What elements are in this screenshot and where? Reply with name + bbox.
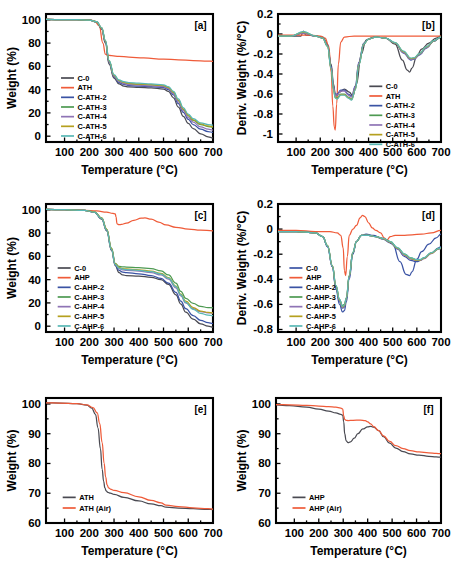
- legend-label-c-0: C-0: [306, 264, 318, 273]
- legend-label-c-ahp-4: C-AHP-4: [74, 302, 105, 311]
- x-tick-label: 600: [407, 527, 426, 539]
- legend-label-ahp-air: AHP (Air): [309, 504, 342, 513]
- plot-frame: [46, 398, 213, 523]
- chart-panel-d: 0.20-0.2-0.4-0.6-0.810020030040050060070…: [226, 192, 451, 382]
- legend-label-c-ath-5: C-ATH-5: [386, 130, 415, 139]
- y-tick-label: -0.2: [253, 248, 273, 260]
- y-tick-label: -0.8: [253, 108, 273, 120]
- series-curve-ath: [46, 19, 213, 61]
- x-tick-label: 300: [335, 336, 354, 348]
- legend-label-c-ahp-3: C-AHP-3: [306, 293, 336, 302]
- x-axis-title: Temperature (°C): [81, 163, 178, 177]
- y-tick-label: 40: [28, 84, 41, 96]
- x-tick-label: 300: [104, 527, 123, 539]
- curve-group: [276, 405, 441, 458]
- panel-tag-a: [a]: [194, 20, 206, 31]
- x-tick-label: 500: [154, 336, 173, 348]
- legend-label-c-ath-6: C-ATH-6: [78, 132, 107, 141]
- series-curve-ath-air: [46, 403, 213, 509]
- legend-label-c-ahp-2: C-AHP-2: [306, 283, 336, 292]
- series-curve-c-ath-3: [46, 19, 213, 127]
- y-axis-title: Deriv. Weight (%/°C): [235, 211, 249, 325]
- x-tick-label: 300: [104, 146, 123, 158]
- chart-panel-c: 020406080100100200300400500600700Tempera…: [0, 192, 225, 382]
- x-axis-title: Temperature (°C): [311, 163, 408, 177]
- plot-frame: [278, 204, 441, 332]
- x-tick-label: 100: [287, 336, 306, 348]
- series-curve-c-ahp-2: [278, 232, 441, 309]
- chart-panel-f: 60708090100100200300400500600700Temperat…: [226, 384, 451, 573]
- series-curve-ahp: [276, 405, 441, 457]
- legend: C-0AHPC-AHP-2C-AHP-3C-AHP-4C-AHP-5C-AHP-…: [289, 264, 336, 331]
- series-curve-c-ath-6: [46, 19, 213, 125]
- legend-label-c-0: C-0: [386, 82, 398, 91]
- legend-label-c-0: C-0: [74, 264, 86, 273]
- series-curve-ath: [278, 35, 441, 130]
- series-curve-ahp: [278, 215, 441, 275]
- x-tick-label: 600: [407, 336, 426, 348]
- panel-tag-c: [c]: [194, 210, 206, 221]
- x-tick-label: 100: [285, 527, 304, 539]
- x-tick-label: 400: [359, 336, 378, 348]
- legend-label-ath: ATH: [78, 83, 93, 92]
- y-tick-label: -0.6: [253, 298, 273, 310]
- legend-label-c-ath-2: C-ATH-2: [78, 93, 107, 102]
- legend-label-c-ath-6: C-ATH-6: [386, 140, 415, 149]
- legend-label-ahp: AHP: [309, 493, 325, 502]
- x-tick-label: 400: [359, 146, 378, 158]
- y-tick-label: -0.4: [253, 273, 273, 285]
- legend-label-c-ath-5: C-ATH-5: [78, 122, 107, 131]
- chart-panel-e: 60708090100100200300400500600700Temperat…: [0, 384, 225, 573]
- y-tick-label: 60: [28, 250, 41, 262]
- legend-label-c-ath-3: C-ATH-3: [78, 103, 107, 112]
- legend: ATHATH (Air): [63, 493, 112, 513]
- legend: C-0AHPC-AHP-2C-AHP-3C-AHP-4C-AHP-5C-AHP-…: [58, 264, 105, 331]
- y-tick-label: 60: [28, 60, 41, 72]
- y-tick-label: 80: [28, 457, 41, 469]
- panel-tag-d: [d]: [422, 210, 435, 221]
- x-tick-label: 300: [335, 146, 354, 158]
- x-tick-label: 500: [154, 146, 173, 158]
- legend-label-c-ath-3: C-ATH-3: [386, 111, 415, 120]
- x-tick-label: 700: [431, 146, 450, 158]
- y-tick-label: 0: [35, 320, 41, 332]
- series-curve-c-ahp-4: [46, 209, 213, 313]
- legend-label-c-ahp-4: C-AHP-4: [306, 302, 337, 311]
- x-tick-label: 100: [55, 527, 74, 539]
- y-axis-title: Weight (%): [5, 430, 19, 492]
- x-tick-label: 500: [383, 336, 402, 348]
- x-tick-label: 700: [431, 336, 450, 348]
- curve-group: [46, 403, 213, 510]
- x-tick-label: 300: [104, 336, 123, 348]
- series-curve-c-0: [278, 232, 441, 312]
- legend-label-ahp: AHP: [74, 273, 90, 282]
- series-curve-c-ahp-5: [278, 232, 441, 307]
- x-tick-label: 600: [179, 527, 198, 539]
- x-tick-label: 400: [358, 527, 377, 539]
- y-tick-label: 90: [28, 428, 41, 440]
- legend: C-0ATHC-ATH-2C-ATH-3C-ATH-4C-ATH-5C-ATH-…: [369, 82, 415, 149]
- y-tick-label: 0.2: [257, 8, 273, 20]
- x-axis-title: Temperature (°C): [81, 544, 178, 558]
- y-tick-label: 0: [35, 130, 41, 142]
- y-tick-label: 60: [258, 517, 271, 529]
- curve-group: [278, 215, 441, 312]
- y-tick-label: 60: [28, 517, 41, 529]
- x-tick-label: 400: [129, 527, 148, 539]
- x-tick-label: 300: [334, 527, 353, 539]
- y-tick-label: 100: [22, 14, 41, 26]
- x-tick-label: 200: [80, 336, 99, 348]
- y-tick-label: 100: [22, 398, 41, 410]
- x-tick-label: 200: [309, 527, 328, 539]
- y-tick-label: 20: [28, 297, 41, 309]
- x-tick-label: 600: [179, 146, 198, 158]
- x-axis-title: Temperature (°C): [310, 544, 407, 558]
- series-curve-c-ath-5: [46, 19, 213, 126]
- series-curve-c-ahp-2: [46, 209, 213, 323]
- x-tick-label: 400: [129, 336, 148, 348]
- legend-label-ahp: AHP: [306, 273, 322, 282]
- series-curve-ahp: [46, 209, 213, 230]
- y-axis-title: Weight (%): [5, 237, 19, 299]
- x-tick-label: 200: [311, 146, 330, 158]
- legend-label-c-ath-4: C-ATH-4: [78, 112, 108, 121]
